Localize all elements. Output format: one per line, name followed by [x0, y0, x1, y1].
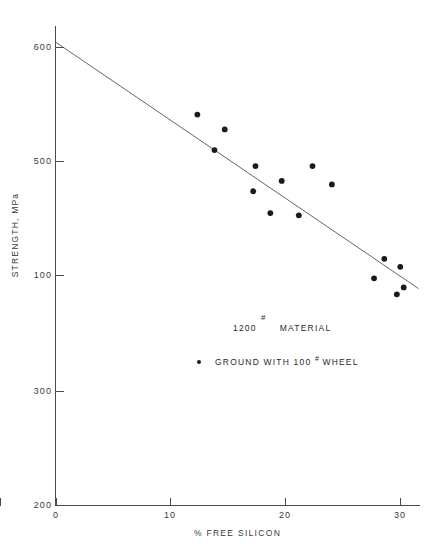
data-point [296, 212, 302, 218]
data-point [194, 112, 200, 118]
data-point-group [194, 112, 406, 298]
data-point [397, 264, 403, 270]
legend-marker-dot-icon [197, 360, 201, 364]
data-point [371, 275, 377, 281]
material-value: 1200 [233, 323, 257, 333]
data-point [279, 178, 285, 184]
legend: # 1200 MATERIAL GROUND WITH 100 # WHEEL [205, 323, 359, 373]
data-point [267, 210, 273, 216]
scatter-plot-figure: 600 500 100 300 200 0 10 20 30 STRENGTH,… [0, 0, 435, 544]
data-point [250, 188, 256, 194]
legend-row-ground: GROUND WITH 100 # WHEEL [205, 355, 359, 373]
data-point [222, 127, 228, 133]
data-point [212, 147, 218, 153]
trend-line [56, 42, 419, 288]
data-point [329, 182, 335, 188]
data-point [310, 163, 316, 169]
data-point [253, 163, 259, 169]
legend-grit-icon: # [315, 355, 319, 362]
plot-area [0, 0, 435, 544]
data-point [394, 291, 400, 297]
legend-row-material: # 1200 MATERIAL [205, 323, 359, 341]
legend-ground-suffix: WHEEL [322, 357, 358, 367]
data-point [401, 285, 407, 291]
material-grit-icon: # [261, 313, 267, 322]
legend-ground-prefix: GROUND WITH 100 [215, 357, 311, 367]
material-word: MATERIAL [280, 323, 331, 333]
data-point [381, 256, 387, 262]
